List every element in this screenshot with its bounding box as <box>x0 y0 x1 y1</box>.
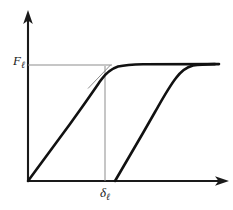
load-deflection-figure: Fℓ δℓ <box>0 0 233 210</box>
y-axis-label-symbol: F <box>13 53 21 68</box>
y-axis-label: Fℓ <box>13 54 25 70</box>
x-axis-label-subscript: ℓ <box>106 191 110 202</box>
x-axis-label: δℓ <box>100 186 110 202</box>
chart-canvas <box>0 0 233 210</box>
reloading-curve <box>115 64 219 181</box>
loading-curve <box>28 64 215 181</box>
y-axis-label-subscript: ℓ <box>21 59 25 70</box>
secant-construction-line <box>88 65 111 89</box>
